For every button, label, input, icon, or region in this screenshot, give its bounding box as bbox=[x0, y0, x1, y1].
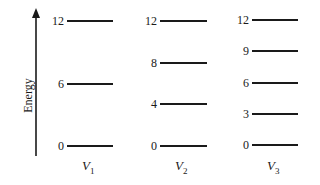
level-label: 0 bbox=[229, 139, 249, 151]
energy-level bbox=[252, 113, 298, 115]
level-label: 0 bbox=[137, 140, 157, 152]
level-label: 12 bbox=[229, 14, 249, 26]
column-label-v1: V1 bbox=[82, 158, 94, 176]
energy-level bbox=[67, 20, 113, 22]
energy-axis-label: Energy bbox=[21, 66, 36, 126]
level-label: 12 bbox=[44, 15, 64, 27]
level-label: 8 bbox=[137, 57, 157, 69]
level-label: 4 bbox=[137, 98, 157, 110]
energy-level bbox=[160, 145, 207, 147]
energy-level bbox=[252, 144, 298, 146]
level-label: 12 bbox=[137, 15, 157, 27]
column-label-v3: V3 bbox=[267, 158, 279, 176]
energy-level bbox=[252, 82, 298, 84]
energy-level bbox=[160, 103, 207, 105]
level-label: 3 bbox=[229, 108, 249, 120]
column-label-v2: V2 bbox=[175, 158, 187, 176]
energy-level bbox=[252, 50, 298, 52]
energy-level bbox=[160, 62, 207, 64]
energy-level bbox=[67, 145, 113, 147]
level-label: 0 bbox=[44, 140, 64, 152]
level-label: 6 bbox=[229, 77, 249, 89]
level-label: 6 bbox=[44, 78, 64, 90]
energy-level bbox=[252, 19, 298, 21]
level-label: 9 bbox=[229, 45, 249, 57]
energy-level bbox=[160, 20, 207, 22]
energy-level bbox=[67, 83, 113, 85]
